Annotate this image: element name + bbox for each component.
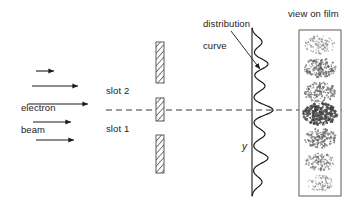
distribution-curve bbox=[252, 28, 273, 196]
distribution-curve-label-line1: distribution bbox=[203, 18, 250, 29]
double-slit-barrier bbox=[156, 42, 164, 173]
electron-beam-label-line2: beam bbox=[21, 124, 45, 135]
barrier-segment-top bbox=[156, 42, 164, 83]
distribution-curve-label: distribution curve bbox=[192, 7, 250, 62]
slot-2-label: slot 2 bbox=[106, 85, 129, 96]
electron-beam-label: electron beam bbox=[10, 91, 56, 146]
distribution-curve-label-line2: curve bbox=[203, 40, 227, 51]
electron-beam-label-line1: electron bbox=[21, 102, 56, 113]
y-axis-label: y bbox=[242, 141, 247, 152]
diagram-canvas: electron beam slot 2 slot 1 distribution… bbox=[0, 0, 357, 210]
barrier-segment-bottom bbox=[156, 135, 164, 173]
view-on-film-label: view on film bbox=[288, 8, 339, 19]
slot-1-label: slot 1 bbox=[106, 123, 129, 134]
barrier-segment-middle bbox=[156, 98, 164, 121]
film-strip bbox=[299, 30, 341, 196]
